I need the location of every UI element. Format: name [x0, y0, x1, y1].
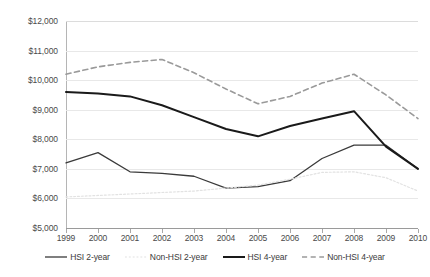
legend-item[interactable]: Non-HSI 4-year: [302, 252, 385, 262]
x-axis-tick-label: 2010: [398, 233, 430, 243]
legend-swatch-solid-icon: [45, 253, 67, 261]
series-line: [66, 92, 418, 169]
x-axis-tickmark: [194, 229, 195, 233]
y-axis-tick-label: $10,000: [6, 75, 58, 85]
x-axis-tickmark: [290, 229, 291, 233]
x-axis-tickmark: [354, 229, 355, 233]
x-axis-tickmark: [130, 229, 131, 233]
x-axis-tickmark: [66, 229, 67, 233]
y-axis-tick-label: $9,000: [6, 105, 58, 115]
legend-label: HSI 4-year: [248, 252, 288, 262]
plot-area: [66, 21, 418, 228]
y-axis-tick-label: $8,000: [6, 134, 58, 144]
legend-swatch-dashed-icon: [302, 253, 324, 261]
x-axis-tickmark: [418, 229, 419, 233]
x-axis-tickmark: [386, 229, 387, 233]
legend-item[interactable]: Non-HSI 2-year: [125, 252, 208, 262]
legend-label: HSI 2-year: [70, 252, 110, 262]
line-chart: $5,000$6,000$7,000$8,000$9,000$10,000$11…: [0, 0, 430, 277]
series-line: [66, 145, 418, 188]
y-axis-tick-label: $7,000: [6, 164, 58, 174]
legend-label: Non-HSI 4-year: [327, 252, 385, 262]
y-axis-tick-label: $5,000: [6, 223, 58, 233]
y-axis-tick-label: $11,000: [6, 46, 58, 56]
legend-item[interactable]: HSI 2-year: [45, 252, 110, 262]
series-line: [66, 59, 418, 118]
y-axis-tick-label: $12,000: [6, 16, 58, 26]
x-axis-line: [66, 228, 418, 229]
x-axis-tickmark: [98, 229, 99, 233]
x-axis-tickmark: [258, 229, 259, 233]
x-axis-tickmark: [322, 229, 323, 233]
legend-item[interactable]: HSI 4-year: [223, 252, 288, 262]
series-line: [66, 172, 418, 197]
y-axis-tick-label: $6,000: [6, 193, 58, 203]
x-axis-tickmark: [226, 229, 227, 233]
chart-legend: HSI 2-yearNon-HSI 2-yearHSI 4-yearNon-HS…: [0, 252, 430, 262]
legend-label: Non-HSI 2-year: [150, 252, 208, 262]
x-axis-tickmark: [162, 229, 163, 233]
legend-swatch-dotted-icon: [125, 253, 147, 261]
series-container: [66, 21, 418, 228]
legend-swatch-solid-icon: [223, 253, 245, 261]
